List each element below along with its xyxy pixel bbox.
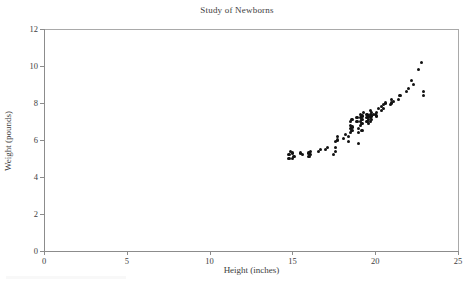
data-point xyxy=(360,129,363,132)
data-point xyxy=(392,100,395,103)
data-point xyxy=(407,87,410,90)
x-tick-label-1: 5 xyxy=(125,256,129,266)
x-axis-line xyxy=(44,251,459,252)
data-point xyxy=(347,135,350,138)
data-point xyxy=(347,140,350,143)
data-point xyxy=(292,155,295,158)
y-axis-title: Weight (pounds) xyxy=(2,29,14,252)
data-point xyxy=(301,153,304,156)
data-point xyxy=(360,118,363,121)
x-tick-4 xyxy=(375,251,376,255)
data-point xyxy=(422,90,425,93)
x-tick-3 xyxy=(292,251,293,255)
data-point xyxy=(384,101,387,104)
y-axis-title-label: Weight (pounds) xyxy=(3,110,13,170)
data-point xyxy=(398,94,401,97)
data-point xyxy=(319,148,322,151)
data-point xyxy=(370,118,373,121)
x-tick-label-2: 10 xyxy=(205,256,214,266)
plot-right-border xyxy=(458,29,459,252)
data-point xyxy=(350,129,353,132)
data-point xyxy=(350,125,353,128)
plot-area: 024681012 0510152025 xyxy=(44,29,459,252)
data-point xyxy=(357,142,360,145)
x-tick-label-3: 15 xyxy=(288,256,297,266)
data-point xyxy=(350,118,353,121)
data-point xyxy=(410,79,413,82)
x-tick-0 xyxy=(44,251,45,255)
data-point xyxy=(309,153,312,156)
data-point xyxy=(342,137,345,140)
data-point xyxy=(360,122,363,125)
x-tick-label-4: 20 xyxy=(371,256,380,266)
y-tick-label-0: 0 xyxy=(34,246,38,256)
data-point xyxy=(332,153,335,156)
x-tick-1 xyxy=(127,251,128,255)
x-tick-2 xyxy=(210,251,211,255)
data-point xyxy=(336,138,339,141)
scatter-chart: Study of Newborns Weight (pounds) Height… xyxy=(0,0,474,287)
y-tick-1 xyxy=(40,214,44,215)
y-tick-label-6: 12 xyxy=(30,24,39,34)
x-tick-5 xyxy=(458,251,459,255)
data-point xyxy=(336,135,339,138)
x-axis-title: Height (inches) xyxy=(44,265,459,275)
data-point xyxy=(412,83,415,86)
data-point xyxy=(405,90,408,93)
data-point xyxy=(326,146,329,149)
data-point xyxy=(334,150,337,153)
y-tick-label-2: 4 xyxy=(34,172,38,182)
data-point xyxy=(397,98,400,101)
y-tick-4 xyxy=(40,103,44,104)
plot-top-border xyxy=(44,29,459,30)
y-tick-label-1: 2 xyxy=(34,209,38,219)
y-tick-label-5: 10 xyxy=(30,61,39,71)
data-point xyxy=(422,94,425,97)
data-point xyxy=(417,68,420,71)
y-axis-line xyxy=(44,29,45,252)
data-point xyxy=(291,151,294,154)
y-tick-3 xyxy=(40,140,44,141)
data-point xyxy=(360,114,363,117)
data-point xyxy=(375,114,378,117)
x-tick-label-0: 0 xyxy=(42,256,46,266)
scan-artifact xyxy=(6,276,126,279)
data-point xyxy=(420,61,423,64)
data-point xyxy=(375,111,378,114)
x-tick-label-5: 25 xyxy=(454,256,463,266)
y-tick-label-3: 6 xyxy=(34,135,38,145)
y-tick-6 xyxy=(40,29,44,30)
y-tick-label-4: 8 xyxy=(34,98,38,108)
data-point xyxy=(309,150,312,153)
y-tick-5 xyxy=(40,66,44,67)
chart-title: Study of Newborns xyxy=(0,5,474,15)
y-tick-2 xyxy=(40,177,44,178)
data-point xyxy=(334,146,337,149)
data-point xyxy=(382,107,385,110)
